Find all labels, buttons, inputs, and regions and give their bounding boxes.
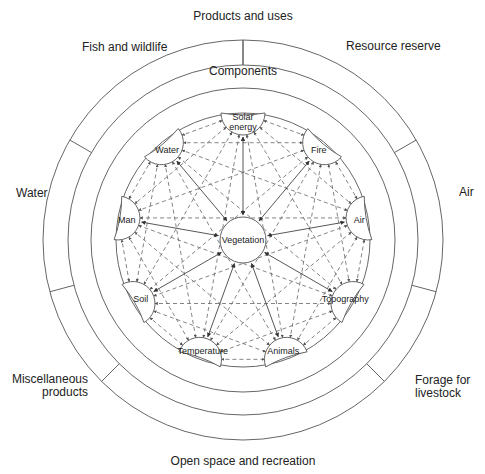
node-label: Water (155, 145, 179, 155)
dashed-interaction-arrow (182, 121, 222, 136)
sector-divider (367, 364, 385, 382)
label-open-space: Open space and recreation (171, 454, 316, 468)
node-fire: Fire (303, 129, 342, 165)
node-label: energy (229, 122, 257, 132)
vegetation-arrow (154, 253, 222, 292)
node-man: Man (114, 196, 140, 240)
node-label: Fire (311, 145, 327, 155)
dashed-interaction-arrow (122, 240, 129, 282)
node-label: Man (118, 215, 136, 225)
node-soil: Soil (122, 282, 155, 323)
sector-divider (70, 140, 92, 153)
vegetation-arrow (259, 161, 309, 221)
dashed-interaction-arrow (336, 162, 357, 199)
dashed-interaction-arrow (290, 164, 321, 337)
sector-divider (102, 364, 120, 382)
sector-divider (395, 140, 417, 153)
label-misc-line2: products (42, 385, 88, 399)
node-label: Soil (133, 294, 148, 304)
node-topography: Topography (322, 282, 370, 323)
label-water-use: Water (16, 186, 48, 200)
label-misc-line1: Miscellaneous (12, 372, 88, 386)
label-air-use: Air (459, 185, 474, 199)
node-water: Water (145, 129, 184, 165)
components-title: Components (209, 64, 277, 78)
node-label: Temperature (177, 346, 228, 356)
products-and-uses-title: Products and uses (193, 9, 292, 23)
vegetation-arrow (268, 222, 345, 236)
vegetation-arrow (252, 263, 279, 336)
node-animals: Animals (264, 337, 307, 367)
node-label: Topography (322, 294, 370, 304)
dashed-interaction-arrow (129, 162, 150, 199)
dashed-interaction-arrow (264, 121, 304, 136)
label-forage-line2: livestock (415, 386, 462, 400)
node-label: Animals (267, 346, 300, 356)
vegetation-label: Vegetation (222, 235, 265, 245)
node-label: Solar (232, 112, 253, 122)
sector-divider (50, 285, 74, 291)
label-forage-line1: Forage for (415, 373, 470, 387)
label-fish-and-wildlife: Fish and wildlife (82, 40, 168, 54)
sector-divider (412, 285, 436, 291)
vegetation-arrow (177, 161, 227, 221)
ecosystem-diagram: SolarenergyFireAirTopographyAnimalsTempe… (0, 0, 485, 474)
vegetation-arrow (142, 222, 219, 236)
vegetation-arrow (265, 253, 333, 292)
vegetation-arrow (208, 263, 235, 336)
node-label: Air (354, 215, 365, 225)
label-resource-reserve: Resource reserve (346, 39, 441, 53)
dashed-interaction-arrow (165, 164, 196, 337)
node-solar: Solarenergy (221, 112, 265, 135)
dashed-interaction-arrow (357, 240, 364, 282)
